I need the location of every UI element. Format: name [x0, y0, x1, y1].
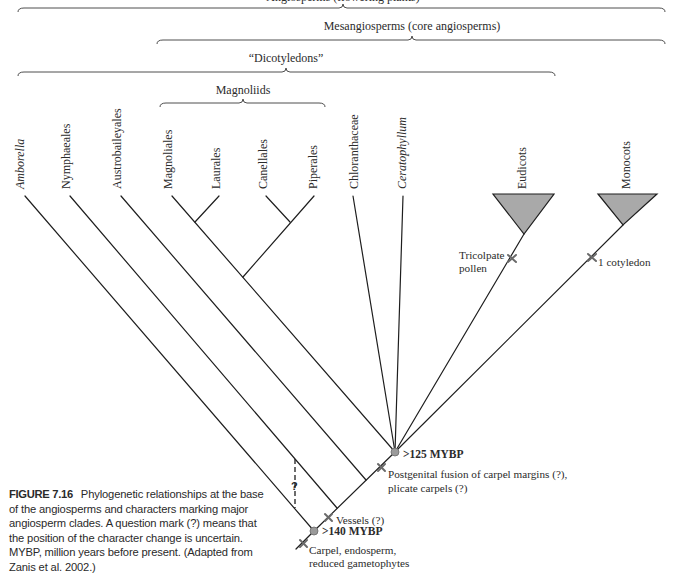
bracket-angiosperms: [18, 4, 665, 12]
node-age-mesangiosperm: >125 MYBP: [403, 448, 464, 460]
taxon-label-amborella: Amborella: [13, 139, 27, 190]
bracket-label-dicotyledons: “Dicotyledons”: [249, 51, 324, 65]
clade-triangle-eudicots: [493, 194, 554, 234]
uncertain-mark: ?: [291, 480, 298, 492]
character-label-postgenital-1: Postgenital fusion of carpel margins (?)…: [388, 468, 568, 481]
bracket-magnoliids: [160, 99, 325, 107]
character-label-tricolpate: Tricolpate: [459, 249, 505, 261]
taxon-label-piperales: Piperales: [306, 145, 320, 189]
bracket-dicotyledons: [18, 68, 555, 76]
taxon-label-eudicots: Eudicots: [515, 147, 529, 189]
branch-canellales: [266, 196, 290, 222]
character-label-carpel-2: reduced gametophytes: [309, 557, 409, 569]
taxon-label-nymphaeales: Nymphaeales: [59, 123, 73, 189]
bracket-label-magnoliids: Magnoliids: [216, 83, 271, 97]
branch-magnoliales: [172, 196, 395, 452]
branch-laurales: [195, 196, 219, 222]
character-label-postgenital-2: plicate carpels (?): [388, 482, 468, 495]
branch-austrobaileyales: [121, 196, 366, 480]
taxon-label-canellales: Canellales: [256, 139, 270, 189]
tick-vessels-icon: [325, 514, 332, 521]
taxon-label-magnoliales: Magnoliales: [161, 129, 175, 189]
branch-ceratophyllum: [395, 196, 403, 452]
bracket-mesangiosperms: [157, 36, 665, 44]
character-ticks: [300, 254, 596, 547]
figure-caption: FIGURE 7.16Phylogenetic relationships at…: [9, 487, 269, 575]
taxon-label-monocots: Monocots: [619, 141, 633, 189]
taxon-label-ceratophyllum: Ceratophyllum: [395, 117, 409, 189]
figure-caption-text: Phylogenetic relationships at the base o…: [9, 488, 264, 573]
taxon-label-chloranthaceae: Chloranthaceae: [347, 114, 361, 189]
clade-triangle-monocots: [598, 194, 657, 225]
character-label-pollen: pollen: [459, 262, 487, 274]
taxon-label-laurales: Laurales: [209, 147, 223, 189]
bracket-label-angiosperms: Angiosperms (flowering plants): [266, 0, 419, 4]
taxon-label-austrobaileyales: Austrobaileyales: [110, 108, 124, 189]
node-age-root: >140 MYBP: [322, 525, 383, 537]
node-root-icon: [310, 527, 318, 535]
branch-piperales: [243, 196, 314, 277]
bracket-label-mesangiosperms: Mesangiosperms (core angiosperms): [324, 19, 501, 33]
character-label-vessels: Vessels (?): [336, 514, 384, 527]
node-mesangiosperm-icon: [391, 448, 399, 456]
branch-nymphaeales: [70, 196, 337, 508]
branch-chloranthaceae: [353, 196, 395, 452]
character-label-cotyledon: 1 cotyledon: [598, 256, 651, 268]
figure-label: FIGURE 7.16: [9, 488, 73, 500]
character-label-carpel-1: Carpel, endosperm,: [309, 544, 397, 556]
